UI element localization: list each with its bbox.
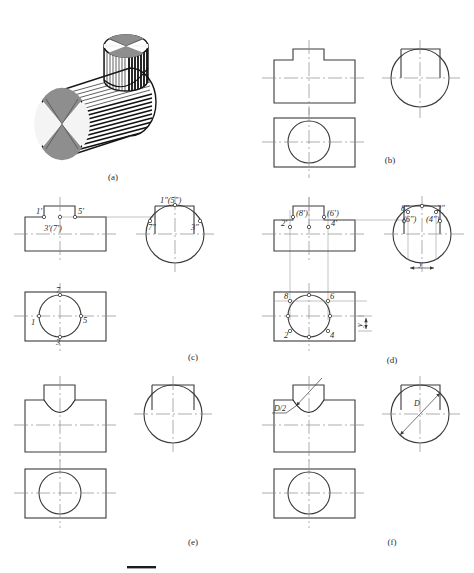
top-outline [25,469,106,518]
caption-d: (d) [372,355,412,365]
top-outline [274,469,355,518]
label-4-prime: 4′ [331,218,337,228]
caption-e: (e) [173,537,213,547]
label-1: 1 [31,317,35,327]
panel-d-side-view: 8″ 2″ (6″) (4″) y [384,196,464,272]
panel-f-side-view: D [382,376,460,452]
intersection-curve [44,400,75,413]
label-3-7-prime: 3′(7′) [43,223,62,233]
point-bottom-marker [307,335,310,338]
label-1-5-dprime: 1″(5″) [160,195,181,205]
side-notch-outline [155,206,194,234]
panel-f-views: D/2 D [262,376,460,528]
label-8-dprime: 8″ [401,203,409,213]
point-left-marker [286,314,289,317]
label-7-dprime: 7″ [148,222,156,232]
label-y-top: y [355,323,364,328]
point-3-7-prime-marker [58,215,61,218]
point-right-marker [328,314,331,317]
label-6-prime: (6′) [327,208,339,218]
dimension-y-top: y [355,316,372,331]
front-outline [274,385,355,452]
panel-c-front-view: 1′ 5′ 3′(7′) [14,197,155,262]
label-4: 4 [330,330,335,340]
front-outline [274,206,355,251]
point-3-dprime-marker [198,219,201,222]
panel-e-top-view [14,460,118,528]
panel-f-top-view [262,460,367,528]
caption-f: (f) [372,537,412,547]
label-d-over-2: D/2 [273,404,286,413]
panel-c-side-view: 1″(5″) 7″ 3″ [136,195,214,272]
label-1-prime: 1′ [36,206,42,216]
panel-d-views: (8′) (6′) 2′ 4′ 8 6 2 4 [262,196,464,351]
bottom-artifact-bar [127,566,156,568]
point-top-marker [307,293,310,296]
label-3: 3 [55,337,60,347]
panel-b-front-view [262,40,367,115]
point-top-dprime-marker [420,204,423,207]
point-2-marker [288,329,291,332]
radius-leader: D/2 [272,378,322,413]
point-center-marker [307,225,310,228]
point-1-marker [37,314,40,317]
panel-e-views [14,376,212,528]
top-outline [274,118,355,167]
point-5-prime-marker [73,215,76,218]
point-4-prime-marker [326,225,329,228]
label-8-prime: (8′) [296,208,308,218]
panel-c-views: 1′ 5′ 3′(7′) 7 1 5 3 1″ [14,195,214,351]
panel-a-pictorial [34,34,156,165]
point-8-marker [288,299,291,302]
label-d: D [413,399,420,408]
small-face-sectors [104,34,149,57]
side-notch-outline [401,49,440,78]
label-5: 5 [83,315,87,325]
label-y-side: y [418,259,423,268]
label-3-dprime: 3″ [190,222,199,232]
point-1-prime-marker [42,215,45,218]
figure-canvas: 1′ 5′ 3′(7′) 7 1 5 3 1″ [0,0,474,573]
panel-d-top-view: 8 6 2 4 y [262,283,372,351]
panel-b-top-view [262,108,367,178]
panel-d-front-view: (8′) (6′) 2′ 4′ [262,197,404,262]
point-8-prime-marker [291,215,294,218]
panel-e-side-view [134,376,212,452]
point-2-prime-marker [288,225,291,228]
label-6-dprime: (6″) [403,214,417,224]
panel-f-front-view: D/2 [262,376,367,462]
front-outline [274,49,355,103]
label-2-prime: 2′ [281,218,287,228]
approximate-arc [293,400,324,413]
caption-b: (b) [370,155,410,165]
dimension-y-side: y [410,259,434,268]
front-outline [25,385,106,452]
caption-a: (a) [93,172,133,182]
technical-figure: 1′ 5′ 3′(7′) 7 1 5 3 1″ [0,0,474,573]
panel-b-side-view [382,40,460,118]
label-4-dprime: (4″) [426,214,440,224]
point-6-prime-marker [322,215,325,218]
label-5-prime: 5′ [78,206,84,216]
panel-e-front-view [14,376,118,462]
label-2-dprime: 2″ [437,203,445,213]
panel-b-views [262,40,460,178]
panel-c-top-view: 7 1 5 3 [14,283,118,351]
caption-c: (c) [173,352,213,362]
